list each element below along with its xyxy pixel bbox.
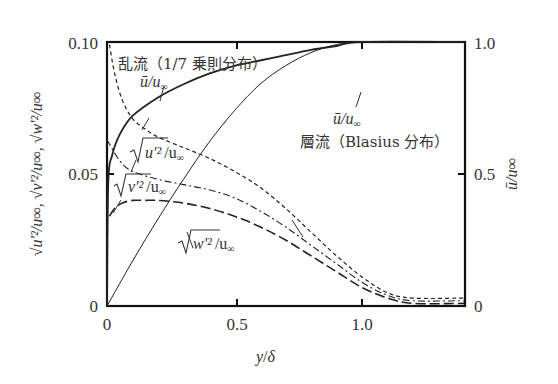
turbulent-label: 乱流（1/7 乗則分布） (118, 55, 267, 73)
ubar-laminar-label: ū/u∞ (333, 110, 361, 129)
ubar-turbulent-label: ū/u∞ (140, 73, 168, 92)
curve-4 (110, 200, 465, 304)
y-left-axis-title: √u'²/u∞, √v'²/u∞, √w'²/u∞ (28, 92, 45, 256)
x-axis-label: y/δ (254, 348, 276, 366)
x-ticks (237, 42, 362, 306)
leader-lines (113, 86, 361, 248)
svg-text:v'²/u∞: v'²/u∞ (128, 178, 166, 197)
uprime-label: u'²/u∞ (130, 138, 184, 163)
vprime-label: v'²/u∞ (114, 174, 166, 197)
wprime-label: w'²/u∞ (178, 230, 234, 254)
y-left-tick-0: 0 (90, 297, 99, 316)
y-right-tick-1.0: 1.0 (474, 34, 495, 53)
x-tick-0.5: 0.5 (226, 315, 247, 334)
x-tick-0: 0 (103, 315, 112, 334)
laminar-label: 層流（Blasius 分布） (300, 133, 449, 151)
curve-3 (107, 140, 464, 301)
y-right-axis-title: ū/u∞ (503, 158, 520, 190)
svg-text:w'²/u∞: w'²/u∞ (193, 235, 234, 254)
y-right-tick-0.5: 0.5 (474, 165, 495, 184)
svg-text:u'²/u∞: u'²/u∞ (145, 144, 184, 163)
y-right-tick-0: 0 (474, 297, 483, 316)
chart-canvas: 0 0.5 1.0 0 0.05 0.10 0 0.5 1.0 y/δ √u'²… (0, 0, 558, 384)
y-left-tick-0.10: 0.10 (68, 34, 98, 53)
x-tick-1.0: 1.0 (351, 315, 372, 334)
y-left-tick-0.05: 0.05 (68, 165, 98, 184)
